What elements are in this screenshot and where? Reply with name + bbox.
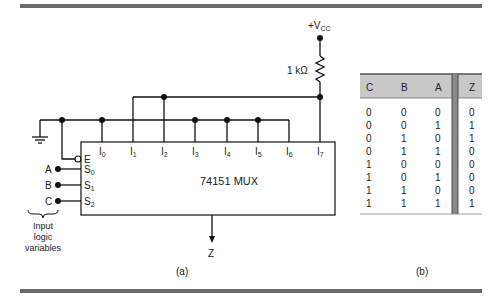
svg-text:0: 0 (435, 185, 441, 196)
header-b: B (401, 82, 408, 93)
table-row: 1010 (366, 172, 475, 183)
enable-inversion-bubble (75, 156, 81, 162)
svg-text:0: 0 (469, 159, 475, 170)
brace-icon (28, 210, 58, 218)
svg-text:B: B (45, 180, 52, 191)
truth-table-header-bg (360, 74, 482, 98)
ground-icon (32, 120, 48, 143)
svg-text:1: 1 (366, 185, 372, 196)
header-z: Z (469, 82, 475, 93)
svg-text:1: 1 (469, 133, 475, 144)
svg-text:C: C (45, 196, 52, 207)
select-input-a: A S0 (45, 164, 95, 176)
resistor-label: 1 kΩ (287, 65, 308, 76)
svg-text:0: 0 (366, 120, 372, 131)
part-a-label: (a) (176, 266, 188, 277)
input-caption-line3: variables (25, 243, 62, 253)
table-row: 0101 (366, 133, 475, 144)
table-row: 1100 (366, 185, 475, 196)
output-label: Z (208, 248, 214, 259)
svg-text:1: 1 (366, 172, 372, 183)
svg-text:1: 1 (366, 198, 372, 209)
svg-text:1: 1 (401, 198, 407, 209)
svg-text:1: 1 (401, 185, 407, 196)
top-rule (20, 4, 482, 8)
svg-text:1: 1 (435, 172, 441, 183)
table-row: 1111 (366, 198, 475, 209)
table-row: 0110 (366, 146, 475, 157)
svg-text:1: 1 (435, 198, 441, 209)
svg-text:0: 0 (469, 172, 475, 183)
svg-text:0: 0 (401, 172, 407, 183)
svg-text:0: 0 (366, 133, 372, 144)
svg-text:0: 0 (435, 159, 441, 170)
select-input-c: C S2 (45, 196, 95, 208)
mux-diagram: +VCC 1 kΩ 74151 MUX E I0 I1 I2 I3 I4 I5 … (0, 0, 497, 303)
table-row: 0011 (366, 120, 475, 131)
svg-text:0: 0 (366, 107, 372, 118)
svg-text:0: 0 (469, 185, 475, 196)
svg-text:0: 0 (366, 146, 372, 157)
svg-text:0: 0 (401, 159, 407, 170)
table-row: 0000 (366, 107, 475, 118)
output-arrow-icon (209, 236, 215, 243)
svg-text:0: 0 (435, 133, 441, 144)
part-b-label: (b) (416, 266, 428, 277)
truth-table-separator (452, 74, 458, 214)
input-caption-line2: logic (34, 232, 53, 242)
header-c: C (366, 82, 373, 93)
table-row: 1000 (366, 159, 475, 170)
svg-text:0: 0 (401, 120, 407, 131)
svg-text:0: 0 (469, 146, 475, 157)
svg-text:1: 1 (401, 146, 407, 157)
select-input-b: B S1 (45, 180, 95, 192)
svg-text:0: 0 (469, 107, 475, 118)
vcc-label: +VCC (308, 20, 331, 32)
svg-text:1: 1 (469, 120, 475, 131)
bottom-rule (20, 289, 482, 293)
svg-text:1: 1 (435, 120, 441, 131)
svg-text:1: 1 (435, 146, 441, 157)
svg-text:A: A (45, 164, 52, 175)
resistor-icon (316, 56, 324, 82)
chip-label: 74151 MUX (200, 175, 259, 187)
input-caption-line1: Input (33, 221, 54, 231)
svg-text:1: 1 (401, 133, 407, 144)
svg-text:0: 0 (401, 107, 407, 118)
svg-text:1: 1 (366, 159, 372, 170)
truth-table: C B A Z 0000 0011 0101 0110 1000 1010 11… (360, 74, 482, 214)
svg-text:0: 0 (435, 107, 441, 118)
header-a: A (435, 82, 442, 93)
svg-text:1: 1 (469, 198, 475, 209)
